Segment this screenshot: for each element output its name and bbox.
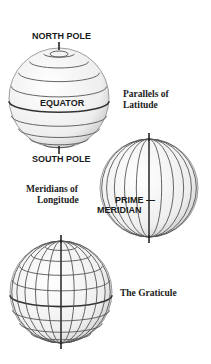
meridians-label-line1: Meridians of	[26, 184, 79, 194]
meridians-label-line2: Longitude	[37, 195, 79, 205]
equator-label: EQUATOR	[40, 98, 85, 108]
north-pole-label: NORTH POLE	[32, 31, 91, 41]
parallels-label-line1: Parallels of	[123, 89, 169, 99]
meridians-globe	[100, 133, 198, 243]
globe-diagram: NORTH POLE EQUATOR SOUTH POLE Parallels …	[0, 0, 211, 364]
parallels-label-line2: Latitude	[123, 100, 158, 110]
prime-meridian-label-line1: PRIME —	[115, 195, 155, 205]
graticule-label: The Graticule	[120, 288, 177, 298]
graticule-globe	[10, 235, 112, 349]
south-pole-label: SOUTH POLE	[32, 154, 91, 164]
prime-meridian-label-line2: MERIDIAN	[97, 205, 142, 215]
